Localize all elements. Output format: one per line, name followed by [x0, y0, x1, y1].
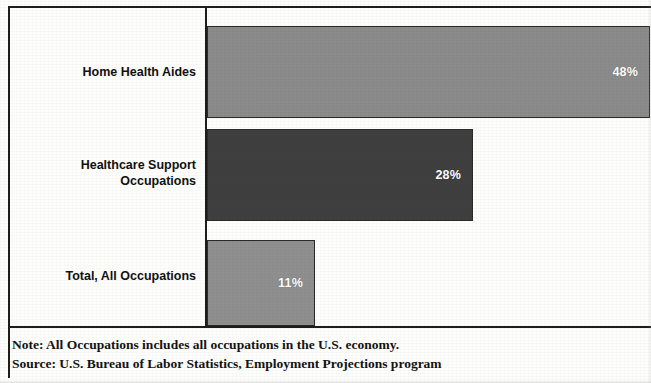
footnote-block: Note: All Occupations includes all occup…	[12, 336, 632, 373]
plot-bottom-rule	[10, 326, 651, 328]
chart-page: Home Health Aides Healthcare Support Occ…	[0, 0, 651, 383]
footnote-note: Note: All Occupations includes all occup…	[12, 336, 632, 355]
category-label-healthcare-support-occupations: Healthcare Support Occupations	[10, 158, 196, 189]
bar-value-total-all-occupations: 11%	[278, 276, 314, 290]
category-axis-line	[205, 8, 207, 326]
bar-healthcare-support-occupations: 28%	[207, 129, 473, 221]
bar-value-home-health-aides: 48%	[612, 65, 649, 79]
category-label-total-all-occupations: Total, All Occupations	[10, 269, 196, 285]
bar-home-health-aides: 48%	[207, 26, 650, 118]
plot-area: Home Health Aides Healthcare Support Occ…	[10, 8, 651, 326]
footnote-source: Source: U.S. Bureau of Labor Statistics,…	[12, 355, 632, 374]
category-label-home-health-aides: Home Health Aides	[10, 65, 196, 81]
bar-total-all-occupations: 11%	[207, 240, 315, 326]
bar-value-healthcare-support-occupations: 28%	[435, 168, 472, 182]
